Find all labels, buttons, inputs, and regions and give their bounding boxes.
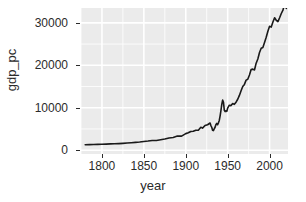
x-tick-label: 1950 <box>214 160 241 173</box>
x-axis-tick-labels: 18001850190019502000 <box>0 160 306 176</box>
x-tick-label: 1900 <box>172 160 199 173</box>
y-tick-mark <box>76 65 80 66</box>
chart-figure: gdp_pc 0100002000030000 1800185019001950… <box>0 0 306 202</box>
y-tick-label: 10000 <box>0 102 68 114</box>
plot-area-svg <box>81 8 288 154</box>
y-tick-label: 30000 <box>0 17 68 29</box>
minor-gridlines <box>81 8 288 154</box>
y-tick-label: 20000 <box>0 59 68 71</box>
x-tick-mark <box>102 154 103 158</box>
x-tick-mark <box>186 154 187 158</box>
x-tick-mark <box>270 154 271 158</box>
x-tick-mark <box>144 154 145 158</box>
plot-panel <box>81 8 288 154</box>
y-tick-mark <box>76 150 80 151</box>
x-tick-mark <box>228 154 229 158</box>
major-gridlines <box>81 8 288 154</box>
x-tick-label: 2000 <box>256 160 283 173</box>
y-tick-mark <box>76 108 80 109</box>
y-tick-label: 0 <box>0 144 68 156</box>
x-axis-title: year <box>0 178 306 193</box>
x-tick-label: 1850 <box>130 160 157 173</box>
x-tick-label: 1800 <box>89 160 116 173</box>
y-tick-mark <box>76 23 80 24</box>
